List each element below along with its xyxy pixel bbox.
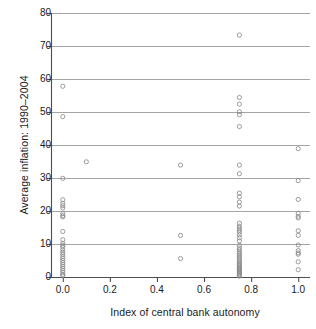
data-point	[296, 197, 300, 201]
data-point	[61, 115, 65, 119]
y-tick-label: 0	[31, 272, 51, 282]
data-point	[237, 172, 241, 176]
data-point	[237, 102, 241, 106]
data-point	[237, 33, 241, 37]
x-axis-title: Index of central bank autonomy	[60, 306, 310, 318]
y-tick-label: 10	[31, 239, 51, 249]
y-tick-label: 80	[31, 8, 51, 18]
y-axis-title: Average inflation: 1990–2004	[16, 13, 32, 277]
data-point	[296, 268, 300, 272]
data-point	[296, 179, 300, 183]
data-point	[296, 260, 300, 264]
x-tick-label: 1.0	[278, 285, 316, 295]
data-points	[61, 33, 301, 278]
data-point	[61, 84, 65, 88]
data-point	[84, 160, 88, 164]
data-point	[178, 163, 182, 167]
data-point	[296, 233, 300, 237]
data-point	[237, 95, 241, 99]
data-point	[296, 147, 300, 151]
y-tick-label: 20	[31, 206, 51, 216]
y-tick-label: 50	[31, 107, 51, 117]
y-tick-label: 30	[31, 173, 51, 183]
x-tick-label: 0.6	[184, 285, 224, 295]
data-point	[296, 229, 300, 233]
data-point	[61, 229, 65, 233]
x-tick-label: 0.2	[90, 285, 130, 295]
x-tick-label: 0.8	[231, 285, 271, 295]
x-tick-label: 0.0	[43, 285, 83, 295]
data-point	[237, 124, 241, 128]
data-point	[178, 256, 182, 260]
y-tick-label: 60	[31, 74, 51, 84]
data-point	[237, 163, 241, 167]
scatter-chart-figure: 01020304050607080 0.00.20.40.60.81.0 Ave…	[0, 0, 316, 329]
data-point	[296, 243, 300, 247]
data-point	[178, 233, 182, 237]
x-tick-label: 0.4	[137, 285, 177, 295]
y-tick-label: 40	[31, 140, 51, 150]
y-tick-label: 70	[31, 41, 51, 51]
data-point	[237, 113, 241, 117]
